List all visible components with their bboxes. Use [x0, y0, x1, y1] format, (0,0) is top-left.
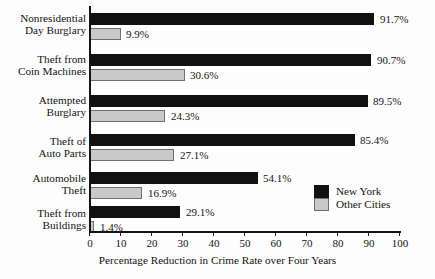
legend-swatch-other-cities-icon [314, 198, 329, 211]
x-tick-90 [368, 232, 369, 236]
bar-new-york-theft-from-coin-machines [90, 54, 371, 66]
legend: New York Other Cities [314, 185, 390, 211]
bar-value-other-cities-nonresidential-day-burglary: 9.9% [126, 28, 149, 40]
x-tick-label-80: 80 [323, 237, 353, 250]
bar-other-cities-theft-of-auto-parts [90, 149, 174, 161]
bar-value-new-york-theft-from-buildings: 29.1% [186, 206, 214, 218]
x-tick-0 [89, 232, 90, 236]
x-tick-60 [275, 232, 276, 236]
category-label-nonresidential-day-burglary: Nonresidential Day Burglary [0, 12, 86, 37]
bar-value-other-cities-theft-of-auto-parts: 27.1% [180, 149, 208, 161]
x-tick-80 [337, 232, 338, 236]
x-tick-10 [120, 232, 121, 236]
x-tick-label-10: 10 [106, 237, 136, 250]
bar-other-cities-automobile-theft [90, 187, 142, 199]
bar-value-other-cities-theft-from-coin-machines: 30.6% [190, 69, 218, 81]
category-label-theft-from-coin-machines: Theft from Coin Machines [0, 53, 86, 78]
x-tick-label-0: 0 [75, 237, 105, 250]
bar-new-york-theft-of-auto-parts [90, 134, 355, 146]
x-tick-100 [399, 232, 400, 236]
x-tick-20 [151, 232, 152, 236]
bar-new-york-automobile-theft [90, 172, 258, 184]
legend-item-other-cities: Other Cities [314, 198, 390, 211]
bar-value-new-york-attempted-burglary: 89.5% [373, 95, 401, 107]
x-tick-label-100: 100 [385, 237, 415, 250]
x-tick-40 [213, 232, 214, 236]
bar-new-york-theft-from-buildings [90, 206, 180, 218]
legend-label-new-york: New York [336, 185, 381, 198]
x-tick-label-20: 20 [137, 237, 167, 250]
bar-other-cities-attempted-burglary [90, 110, 165, 122]
bar-new-york-nonresidential-day-burglary [90, 13, 374, 25]
category-label-theft-of-auto-parts: Theft of Auto Parts [0, 135, 86, 160]
crime-reduction-bar-chart: Nonresidential Day Burglary Theft from C… [0, 0, 435, 279]
bar-value-other-cities-automobile-theft: 16.9% [148, 187, 176, 199]
category-label-automobile-theft: Automobile Theft [0, 172, 86, 197]
x-tick-70 [306, 232, 307, 236]
legend-label-other-cities: Other Cities [336, 198, 390, 211]
bar-value-new-york-nonresidential-day-burglary: 91.7% [380, 13, 408, 25]
bar-value-new-york-theft-from-coin-machines: 90.7% [377, 54, 405, 66]
x-axis-title: Percentage Reduction in Crime Rate over … [0, 254, 435, 266]
x-tick-label-70: 70 [292, 237, 322, 250]
bar-value-new-york-automobile-theft: 54.1% [263, 172, 291, 184]
x-tick-label-60: 60 [261, 237, 291, 250]
bar-value-new-york-theft-of-auto-parts: 85.4% [360, 134, 388, 146]
x-tick-30 [182, 232, 183, 236]
legend-item-new-york: New York [314, 185, 390, 198]
x-tick-50 [244, 232, 245, 236]
x-tick-label-90: 90 [354, 237, 384, 250]
bar-other-cities-theft-from-coin-machines [90, 69, 185, 81]
y-axis-line [89, 6, 91, 232]
x-tick-label-40: 40 [199, 237, 229, 250]
category-label-attempted-burglary: Attempted Burglary [0, 94, 86, 119]
bar-new-york-attempted-burglary [90, 95, 368, 107]
bar-other-cities-nonresidential-day-burglary [90, 28, 121, 40]
bar-value-other-cities-attempted-burglary: 24.3% [171, 110, 199, 122]
x-tick-label-30: 30 [168, 237, 198, 250]
category-label-theft-from-buildings: Theft from Buildings [0, 207, 86, 232]
x-tick-label-50: 50 [230, 237, 260, 250]
legend-swatch-new-york-icon [314, 185, 329, 198]
